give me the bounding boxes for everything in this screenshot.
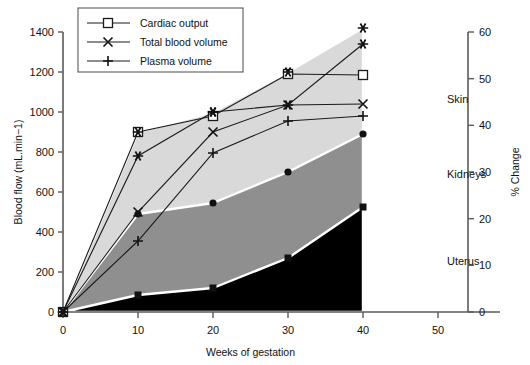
x-tick-label: 30 <box>282 324 294 336</box>
area-point-marker <box>135 292 142 299</box>
legend-label: Plasma volume <box>140 55 212 67</box>
x-tick-label: 40 <box>357 324 369 336</box>
area-point-marker <box>360 204 367 211</box>
y2-tick-label: 60 <box>479 26 491 38</box>
y-tick-label: 0 <box>48 306 54 318</box>
y-axis-title: Blood flow (mL.min−1) <box>12 120 24 225</box>
area-point-marker <box>134 210 141 217</box>
data-point-marker <box>359 71 368 80</box>
legend-item-cardiac-output: Cardiac output <box>87 17 208 29</box>
y-tick-label: 600 <box>36 186 54 198</box>
legend-marker-open-square <box>104 19 113 28</box>
area-point-marker <box>210 285 217 292</box>
y2-tick-label: 50 <box>479 73 491 85</box>
x-tick-label: 20 <box>207 324 219 336</box>
y2-axis-title: % Change <box>509 147 521 196</box>
x-tick-label: 50 <box>432 324 444 336</box>
area-point-marker <box>284 168 291 175</box>
area-point-marker <box>359 130 366 137</box>
band-label-skin: Skin <box>447 93 468 105</box>
x-tick-label: 0 <box>60 324 66 336</box>
band-label-kidneys: Kidneys <box>447 168 487 180</box>
y-tick-label: 1000 <box>30 106 54 118</box>
area-point-marker <box>209 199 216 206</box>
legend-label: Cardiac output <box>140 17 208 29</box>
chart-svg: 0200400600800100012001400010203040500102… <box>0 0 530 365</box>
legend-label: Total blood volume <box>140 36 228 48</box>
y2-tick-label: 0 <box>479 306 485 318</box>
area-point-marker <box>285 255 292 262</box>
band-label-uterus: Uterus <box>447 255 480 267</box>
y-tick-label: 800 <box>36 146 54 158</box>
y-tick-label: 1400 <box>30 26 54 38</box>
y2-tick-label: 10 <box>479 259 491 271</box>
y-tick-label: 1200 <box>30 66 54 78</box>
x-tick-label: 10 <box>132 324 144 336</box>
y-tick-label: 200 <box>36 266 54 278</box>
chart-figure: 0200400600800100012001400010203040500102… <box>0 0 530 365</box>
y-tick-label: 400 <box>36 226 54 238</box>
y2-tick-label: 40 <box>479 119 491 131</box>
x-axis-title: Weeks of gestation <box>206 346 295 358</box>
y2-tick-label: 20 <box>479 213 491 225</box>
